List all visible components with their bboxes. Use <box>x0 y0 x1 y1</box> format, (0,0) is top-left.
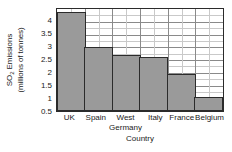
bar-series <box>57 9 223 111</box>
plot-area <box>56 8 224 112</box>
x-tick-france: France <box>169 113 196 132</box>
x-axis-tick-labels: UK Spain West Germany Italy France Belgi… <box>56 113 224 132</box>
y-tick-4: 4 <box>48 17 52 25</box>
y-tick-1: 1 <box>48 95 52 103</box>
x-tick-uk: UK <box>56 113 83 132</box>
y-tick-2: 2 <box>48 69 52 77</box>
x-tick-belgium: Belgium <box>195 113 224 132</box>
bar-west-germany <box>112 55 141 111</box>
y-tick-2.5: 2.5 <box>41 56 52 64</box>
y-axis-title-so2: SO <box>5 75 14 86</box>
bar-uk <box>57 12 86 111</box>
so2-emissions-bar-chart: SO2 Emissions (millions of tonnes) 0.5 1… <box>0 0 232 152</box>
x-tick-belgium-line1: Belgium <box>195 113 224 122</box>
x-tick-germany-line2: Germany <box>109 123 142 133</box>
x-tick-italy: Italy <box>142 113 169 132</box>
bar-spain <box>84 47 113 111</box>
y-axis-tick-labels: 0.5 1 1.5 2 2.5 3 3.5 4 <box>30 8 55 112</box>
y-axis-title: SO2 Emissions (millions of tonnes) <box>0 0 30 120</box>
x-tick-spain: Spain <box>83 113 110 132</box>
x-tick-spain-line1: Spain <box>86 113 106 122</box>
y-tick-1.5: 1.5 <box>41 82 52 90</box>
x-tick-italy-line1: Italy <box>148 113 163 122</box>
y-axis-title-units: (millions of tonnes) <box>16 27 26 92</box>
y-axis-title-subscript: 2 <box>9 72 15 75</box>
bar-france <box>167 74 196 111</box>
x-axis-title: Country <box>56 134 224 143</box>
y-tick-3.5: 3.5 <box>41 30 52 38</box>
bar-belgium <box>194 97 223 111</box>
bar-italy <box>139 57 168 111</box>
x-tick-germany-line1: West <box>117 113 135 122</box>
x-tick-france-line1: France <box>169 113 194 122</box>
y-tick-0.5: 0.5 <box>41 108 52 116</box>
y-axis-title-emissions: Emissions <box>5 34 14 72</box>
y-tick-3: 3 <box>48 43 52 51</box>
x-tick-west-germany: West Germany <box>109 113 142 132</box>
x-tick-uk-line1: UK <box>64 113 75 122</box>
